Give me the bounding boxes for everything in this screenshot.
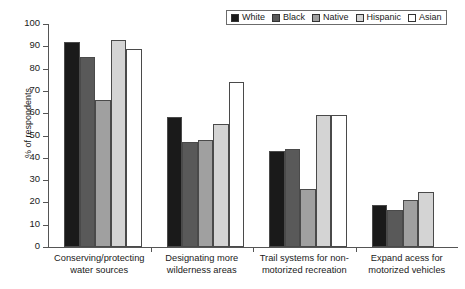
bar-black [285,149,301,247]
bar-native [300,189,316,247]
bar-native [198,140,214,247]
legend-item-white: White [231,13,265,22]
legend-swatch-icon [356,14,364,22]
category-label: Conserving/protectingwater sources [48,252,151,276]
legend-label: Hispanic [367,13,402,22]
category-label-line: motorized vehicles [356,264,459,276]
bar-asian [331,115,347,247]
category-label-line: Conserving/protecting [48,252,151,264]
bar-white [64,42,80,247]
category-label-line: wilderness areas [151,264,254,276]
y-tick-label: 70 [29,84,40,95]
y-tick-label: 10 [29,218,40,229]
category-label-line: water sources [48,264,151,276]
legend-item-native: Native [312,13,349,22]
legend-label: Black [283,13,305,22]
category-label-line: Designating more [151,252,254,264]
legend-item-black: Black [272,13,305,22]
bar-asian [126,49,142,247]
y-tick-label: 40 [29,151,40,162]
bar-black [80,57,96,247]
bar-native [403,200,419,247]
y-tick-label: 50 [29,129,40,140]
category-label-line: Trail systems for non- [253,252,356,264]
bar-group [356,24,459,247]
legend-swatch-icon [272,14,280,22]
bar-group [253,24,356,247]
y-tick-label: 20 [29,195,40,206]
bar-hispanic [111,40,127,247]
category-label-line: Expand acess for [356,252,459,264]
bar-hispanic [418,192,434,247]
category-label: Expand acess formotorized vehicles [356,252,459,276]
bar-group [48,24,151,247]
y-tick-label: 100 [24,17,40,28]
category-label-line: motorized recreation [253,264,356,276]
bar-hispanic [316,115,332,247]
bar-asian [229,82,245,247]
legend-swatch-icon [231,14,239,22]
legend-swatch-icon [408,14,416,22]
bar-group [151,24,254,247]
legend-item-asian: Asian [408,13,442,22]
bar-chart: % of respondents WhiteBlackNativeHispani… [0,0,465,289]
legend-item-hispanic: Hispanic [356,13,402,22]
bar-hispanic [213,124,229,247]
y-tick-label: 90 [29,39,40,50]
bar-white [269,151,285,247]
plot-area: 1009080706050403020100 [48,24,458,247]
legend-label: Native [323,13,349,22]
y-tick-label: 80 [29,62,40,73]
category-label: Trail systems for non-motorized recreati… [253,252,356,276]
bar-native [95,100,111,247]
category-label: Designating morewilderness areas [151,252,254,276]
bar-white [167,117,183,247]
bar-white [372,205,388,247]
chart-legend: WhiteBlackNativeHispanicAsian [226,10,447,25]
y-tick-label: 60 [29,106,40,117]
bar-black [387,210,403,247]
legend-swatch-icon [312,14,320,22]
bar-black [182,142,198,247]
x-axis-category-labels: Conserving/protectingwater sourcesDesign… [48,252,458,286]
legend-label: White [242,13,265,22]
y-tick-label: 30 [29,173,40,184]
y-tick: 0 [43,247,48,248]
y-tick-label: 0 [35,240,40,251]
legend-label: Asian [419,13,442,22]
